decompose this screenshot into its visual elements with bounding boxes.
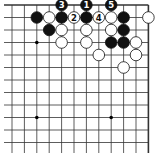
white-stone xyxy=(143,12,155,24)
white-stone xyxy=(105,24,117,36)
star-point xyxy=(35,41,39,45)
black-stone xyxy=(81,12,93,24)
black-stone-move-5: 5 xyxy=(105,0,117,11)
move-number-label: 4 xyxy=(96,13,102,23)
white-stone xyxy=(118,62,130,74)
black-stone-move-3: 3 xyxy=(56,0,68,11)
black-stone xyxy=(118,24,130,36)
white-stone xyxy=(43,12,55,24)
white-stone-move-4: 4 xyxy=(93,12,105,24)
white-stone xyxy=(93,49,105,61)
move-number-label: 2 xyxy=(71,13,77,23)
black-stone xyxy=(118,12,130,24)
white-stone xyxy=(130,49,142,61)
white-stone xyxy=(130,37,142,49)
go-board: 31524 xyxy=(0,0,160,162)
black-stone xyxy=(43,24,55,36)
star-point xyxy=(109,116,113,120)
white-stone xyxy=(81,24,93,36)
white-stone xyxy=(105,12,117,24)
move-number-label: 5 xyxy=(108,0,114,10)
white-stone xyxy=(56,37,68,49)
black-stone xyxy=(105,37,117,49)
black-stone xyxy=(118,37,130,49)
white-stone-move-2: 2 xyxy=(68,12,80,24)
star-point xyxy=(35,116,39,120)
move-number-label: 1 xyxy=(83,0,89,10)
black-stone xyxy=(56,12,68,24)
black-stone xyxy=(31,12,43,24)
move-number-label: 3 xyxy=(59,0,65,10)
white-stone xyxy=(56,24,68,36)
black-stone-move-1: 1 xyxy=(81,0,93,11)
white-stone xyxy=(81,37,93,49)
